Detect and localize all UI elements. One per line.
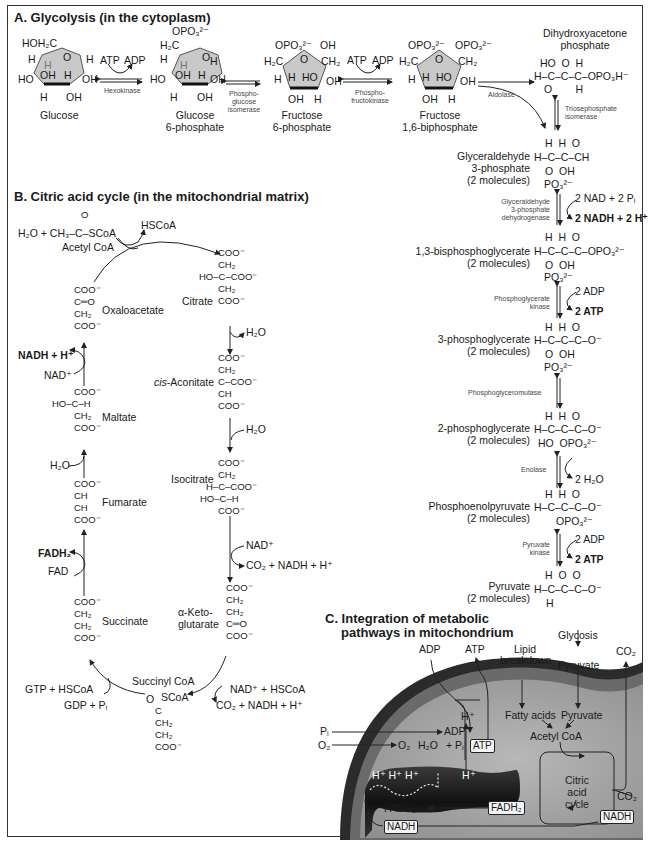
g6p-o: O	[202, 52, 210, 63]
glucose-label: Glucose	[40, 110, 79, 121]
cis-aconitate-label: cis-Aconitate	[154, 377, 214, 388]
g6p-oh-right: OH	[210, 74, 226, 85]
mito-h-plus-row: H⁺ H⁺ H⁺	[372, 770, 419, 781]
bpg-row2: O OH	[545, 260, 575, 271]
pg3-row3: PO₃²⁻	[544, 362, 573, 373]
f6p-label-2: 6-phosphate	[262, 122, 342, 133]
mito-atp-box: ATP	[470, 739, 495, 753]
g6p-oh-ring: OH	[175, 70, 191, 81]
gap-row3: PO₃²⁻	[544, 179, 573, 190]
pg3-name-1: 3-phosphoglycerate	[438, 333, 530, 345]
enolase-water: 2 H₂O	[575, 474, 604, 485]
f6p-phosphate: OPO₃²⁻	[275, 40, 312, 51]
citrate-l3: CH₂	[218, 283, 257, 295]
dhap-formula-row1: HO O H	[540, 58, 583, 69]
akg-l0: COO⁻	[226, 582, 253, 594]
section-a-title: A. Glycolysis (in the cytoplasm)	[14, 11, 211, 24]
gap-row1: H–C–C–CH	[534, 152, 589, 163]
g6p-label-2: 6-phosphate	[155, 122, 235, 133]
pg2-name-2: (2 molecules)	[467, 434, 530, 446]
mito-co2-top: CO₂	[616, 646, 636, 657]
f16bp-phosphate-left: OPO₃²⁻	[408, 40, 445, 51]
akg-label: α-Keto- glutarate	[178, 606, 219, 630]
fumarate-structure: COO⁻ CH CH COO⁻	[74, 478, 101, 526]
dhap-label-2: phosphate	[530, 40, 640, 51]
citrate-label: Citrate	[182, 296, 213, 307]
acetylcoa-o: O	[81, 210, 88, 220]
mal-l3: COO⁻	[74, 422, 101, 434]
akg-name-1: α-Keto-	[178, 606, 213, 618]
f6p-oh-right: OH	[326, 76, 342, 87]
pgk-atp: 2 ATP	[575, 306, 604, 317]
malate-structure: COO⁻ HO–C–H CH₂ COO⁻	[74, 386, 101, 434]
g6p-label-1: Glucose	[155, 110, 235, 121]
f6p-h-bot: H	[314, 94, 322, 105]
fum-l2: CH	[74, 502, 101, 514]
mito-nadh-box-right: NADH	[600, 810, 634, 824]
section-c-title: C. Integration of metabolic pathways in …	[325, 612, 514, 640]
mito-atp: ATP	[465, 644, 485, 655]
akgdh-inputs: NAD⁺ + HSCoA	[230, 684, 305, 695]
mito-pi-inner: + Pᵢ	[446, 740, 464, 751]
enzyme-aldolase: Aldolase	[488, 91, 515, 98]
oxaloacetate-structure: COO⁻ C═O CH₂ COO⁻	[74, 284, 101, 332]
g6p-h3: H	[210, 56, 218, 67]
pg2-name-1: 2-phosphoglycerate	[438, 422, 530, 434]
enzyme-pgk-2: kinase	[530, 303, 550, 310]
oaa-l3: COO⁻	[74, 320, 101, 332]
pyruvate-name-2: (2 molecules)	[467, 592, 530, 604]
f6p-ho-ring: HO	[302, 72, 318, 83]
mito-fadh2-box: FADH₂	[488, 801, 525, 815]
succ-coa-l3: COO⁻	[155, 741, 182, 753]
enzyme-pgk-1: Phosphoglycerate	[494, 295, 550, 302]
enzyme-tpi-1: Triosephosphate	[565, 105, 617, 112]
mal-l2: CH₂	[74, 410, 101, 422]
citrate-l4: COO⁻	[218, 295, 257, 307]
cisacon-l1: CH₂	[218, 364, 257, 376]
pg3-row2: O OH	[545, 349, 575, 360]
mito-acetyl-coa: Acetyl CoA	[530, 731, 582, 742]
f6p-oh-bot: OH	[288, 94, 304, 105]
enzyme-pk-1: Pyruvate	[522, 541, 550, 548]
enzyme-hexokinase: Hexokinase	[104, 87, 141, 94]
pep-row2: OPO₃²⁻	[556, 516, 593, 527]
cis-italic: cis	[154, 376, 167, 388]
citrate-structure: COO⁻ CH₂ HO–C–COO⁻ CH₂ COO⁻	[218, 247, 257, 307]
f16bp-ho-ring: HO	[436, 72, 452, 83]
sdh-fad: FAD	[48, 566, 68, 577]
f6p-ch2-right: CH₂	[321, 56, 340, 67]
isocit-l4: COO⁻	[218, 505, 257, 517]
f6p-h-ring: H	[288, 72, 296, 83]
enzyme-pgi: Phospho- glucose isomerase	[226, 90, 262, 114]
akg-structure: COO⁻ CH₂ CH₂ C═O COO⁻	[226, 582, 253, 642]
cycle-1: Citric	[565, 774, 589, 786]
oaa-l1: C═O	[74, 296, 101, 308]
g6p-h-bot: H	[170, 92, 178, 103]
succinyl-structure: C CH₂ CH₂ COO⁻	[155, 705, 182, 753]
isocitrate-label: Isocitrate	[171, 474, 214, 485]
glucose-h3: H	[86, 54, 94, 65]
hscoa-out: HSCoA	[141, 220, 176, 231]
oaa-l2: CH₂	[74, 308, 101, 320]
idh-products: CO₂ + NADH + H⁺	[246, 560, 333, 571]
citrate-l2: HO–C–COO⁻	[199, 271, 257, 283]
pg3-row1: H–C–C–C–O⁻	[534, 335, 602, 346]
enzyme-pfk: Phospho- fructokinase	[345, 89, 395, 105]
dhap-formula-row2: H–C–C–C–OPO₃H⁻	[534, 71, 629, 82]
cisacon-l3: CH	[218, 388, 257, 400]
enzyme-pfk-1: Phospho-	[355, 89, 385, 96]
glucose-ho: HO	[18, 74, 34, 85]
gap-label: Glyceraldehyde 3-phosphate (2 molecules)	[410, 150, 530, 186]
pep-label: Phosphoenolpyruvate (2 molecules)	[400, 500, 530, 524]
f16bp-phosphate-right: OPO₃²⁻	[455, 40, 492, 51]
fum-l3: COO⁻	[74, 514, 101, 526]
hexokinase-atp: ATP	[100, 55, 120, 66]
enzyme-gapdh-2: 3-phosphate	[511, 206, 550, 213]
enzyme-pk: Pyruvate kinase	[500, 541, 550, 557]
f6p-label-1: Fructose	[262, 110, 342, 121]
enzyme-pk-2: kinase	[530, 549, 550, 556]
isocit-l0: COO⁻	[218, 457, 257, 469]
pk-adp: 2 ADP	[575, 534, 605, 545]
gapdh-nadh-out: 2 NADH + 2 H⁺	[575, 213, 648, 224]
bpg-row1: H–C–C–C–OPO₃²⁻	[534, 246, 625, 257]
